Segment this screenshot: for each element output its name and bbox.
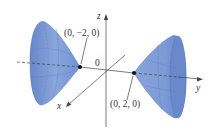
z-arrow-icon — [104, 14, 108, 20]
point-label-right: (0, 2, 0) — [110, 99, 140, 110]
y-axis-label: y — [195, 83, 201, 93]
x-arrow-icon — [66, 102, 71, 108]
leader-right — [127, 76, 133, 100]
point-label-left: (0, −2, 0) — [64, 28, 99, 39]
vertex-point-left — [78, 65, 82, 69]
z-axis-label: z — [96, 11, 101, 21]
leader-left — [81, 38, 87, 64]
y-axis-middle — [80, 67, 134, 73]
x-axis-label: x — [56, 101, 62, 111]
vertex-point-right — [132, 71, 136, 75]
origin-label: 0 — [95, 58, 100, 68]
y-arrow-icon — [197, 77, 203, 82]
hyperboloid-diagram: z y x 0 (0, −2, 0) (0, 2, 0) — [0, 0, 218, 133]
